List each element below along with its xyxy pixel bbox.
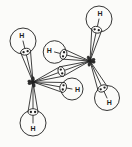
- electron-dot: [30, 111, 32, 113]
- electron-dot: [103, 86, 105, 88]
- hydrogen-label: H: [107, 99, 112, 106]
- electron-dot: [98, 29, 100, 31]
- electron-dot: [100, 88, 102, 90]
- hydrogen-label: H: [75, 86, 80, 93]
- hydrogen-label: H: [19, 32, 24, 39]
- hydrogen-label: H: [98, 10, 103, 17]
- orbital-lobe-edge: [28, 82, 33, 112]
- orbital-lobe-edge: [33, 82, 62, 92]
- overlap-region-ellipse: [59, 82, 67, 93]
- electron-dot: [61, 72, 63, 74]
- overlap-region-ellipse: [91, 25, 102, 34]
- hydrogen-label: H: [30, 125, 35, 132]
- ethane-orbital-overlap-diagram: HHHHHH: [0, 0, 132, 147]
- electron-dot: [62, 55, 64, 57]
- electron-dot: [60, 68, 62, 70]
- overlap-region-ellipse: [28, 109, 38, 116]
- electron-dot: [26, 50, 28, 52]
- hydrogen-label: H: [47, 47, 52, 54]
- overlap-region-ellipse: [97, 83, 109, 93]
- orbital-lobe-edge: [90, 61, 107, 86]
- carbon-center-knot: [32, 81, 35, 84]
- electron-dot: [93, 28, 95, 30]
- electron-dot: [62, 84, 64, 86]
- figure-canvas: HHHHHH: [0, 0, 132, 147]
- bond-axis-line: [90, 61, 107, 98]
- electron-dot: [63, 51, 65, 53]
- electron-dot: [34, 111, 36, 113]
- electron-dot: [62, 88, 64, 90]
- electron-dot: [22, 51, 24, 53]
- carbon-center-knot: [89, 60, 92, 63]
